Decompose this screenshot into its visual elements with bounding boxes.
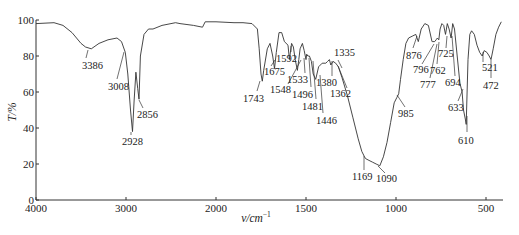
peak-label: 1090 <box>376 173 397 184</box>
peak-leader-line <box>397 95 405 107</box>
peak-label: 472 <box>483 80 499 91</box>
peak-label: 1675 <box>264 66 285 77</box>
peak-leader-line <box>413 36 417 48</box>
peak-leader-line <box>338 66 347 88</box>
y-tick-label: 100 <box>18 14 35 26</box>
peak-label: 1548 <box>270 84 291 95</box>
x-tick-label: 500 <box>478 202 495 214</box>
peak-label: 1362 <box>330 88 351 99</box>
peak-label: 1592 <box>276 53 297 64</box>
peak-leader-line <box>446 36 447 48</box>
peak-label: 1380 <box>316 77 337 88</box>
peak-label: 985 <box>398 108 414 119</box>
peak-label: 876 <box>406 50 422 61</box>
peak-leader-line <box>304 58 305 73</box>
y-tick-label: 20 <box>23 158 35 170</box>
peak-leader-line <box>139 100 143 108</box>
peak-label: 610 <box>458 135 474 146</box>
peak-label: 694 <box>445 77 462 88</box>
peak-label: 2856 <box>137 109 158 120</box>
peak-label: 1481 <box>302 101 323 112</box>
x-axis-label-main: v/cm <box>241 212 263 224</box>
x-tick-label: 4000 <box>25 202 48 214</box>
peak-leader-line <box>309 58 311 87</box>
ir-spectrum-chart: 020406080100 40003000200015001000500 338… <box>0 0 519 235</box>
peak-label: 633 <box>448 102 464 113</box>
peak-label: 1446 <box>316 115 337 126</box>
peak-label: 1533 <box>287 74 308 85</box>
peak-leader-line <box>378 166 385 173</box>
y-tick-label: 40 <box>23 122 35 134</box>
x-axis-label: v/cm−1 <box>241 210 271 224</box>
peak-label: 3008 <box>108 81 129 92</box>
x-tick-label: 2000 <box>205 202 228 214</box>
peak-label: 725 <box>438 48 454 59</box>
peak-label: 1743 <box>243 93 264 104</box>
peak-label: 1335 <box>334 47 355 58</box>
peak-label: 796 <box>413 64 429 75</box>
peak-leader-line <box>257 81 260 91</box>
x-tick-label: 3000 <box>115 202 138 214</box>
y-axis-label: T/% <box>6 102 18 121</box>
peak-label: 777 <box>420 79 436 90</box>
peak-leader-line <box>422 44 434 64</box>
peak-annotations: 3386300829282856174316751592154815331496… <box>82 36 499 184</box>
peak-label: 3386 <box>82 60 103 71</box>
peak-label: 1496 <box>292 89 313 100</box>
y-tick-label: 60 <box>23 86 35 98</box>
x-tick-label: 1000 <box>385 202 408 214</box>
peak-label: 762 <box>430 65 446 76</box>
peak-label: 521 <box>482 62 498 73</box>
peak-leader-line <box>86 50 88 58</box>
peak-label: 1169 <box>352 171 373 182</box>
peak-label: 2928 <box>122 136 143 147</box>
spectrum-line <box>36 22 501 166</box>
x-axis-label-sup: −1 <box>263 210 271 219</box>
x-tick-label: 1500 <box>295 202 318 214</box>
y-tick-label: 80 <box>23 50 35 62</box>
peak-leader-line <box>117 52 124 79</box>
